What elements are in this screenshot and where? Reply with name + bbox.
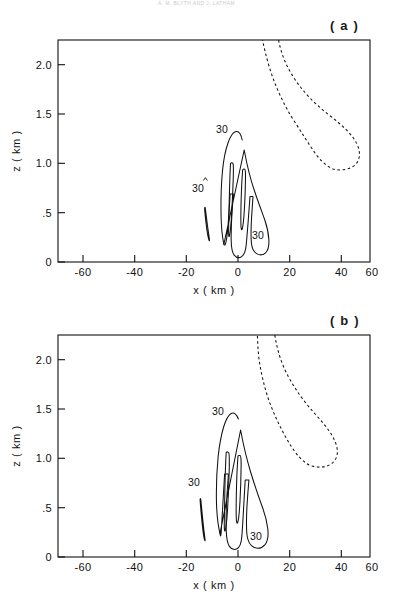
plot-frame	[58, 335, 370, 557]
svg-text:-60: -60	[75, 266, 92, 278]
svg-text:-20: -20	[178, 561, 195, 573]
caret-mark	[203, 178, 207, 181]
svg-text:0: 0	[235, 561, 241, 573]
contour-label-top: 30	[212, 405, 224, 417]
svg-text:40: 40	[335, 266, 348, 278]
panel-a: ( a ) -60 -40 -20 0 20 40 60	[0, 8, 393, 308]
svg-text:-40: -40	[126, 266, 143, 278]
contour-label-left: 30	[192, 182, 204, 194]
dashed-contour-outer	[263, 40, 360, 170]
panel-b: ( b ) -60 -40 -20 0 20 40 60	[0, 303, 393, 603]
svg-text:1.0: 1.0	[36, 157, 52, 169]
svg-text:0: 0	[235, 266, 241, 278]
svg-text:2.0: 2.0	[36, 354, 52, 366]
y-axis-ticks	[58, 65, 65, 262]
x-axis-tick-labels: -60 -40 -20 0 20 40 60	[75, 266, 379, 278]
y-axis-title: z ( km )	[10, 130, 22, 171]
svg-text:.5: .5	[42, 207, 52, 219]
svg-text:1.5: 1.5	[36, 108, 52, 120]
contour-label-right: 30	[250, 530, 262, 542]
solid-contour-sliver-inner-1	[229, 163, 234, 237]
svg-text:0: 0	[46, 551, 52, 563]
solid-contour-sliver-left	[205, 207, 210, 240]
contour-label-right: 30	[252, 229, 264, 241]
x-axis-ticks	[83, 550, 341, 557]
y-axis-title: z ( km )	[10, 425, 22, 466]
running-head: A. M. BLYTH AND J. LATHAM	[0, 0, 393, 6]
svg-text:20: 20	[283, 266, 296, 278]
panel-b-plot: -60 -40 -20 0 20 40 60 0 .5 1.0 1.5 2.0 …	[0, 303, 393, 603]
svg-text:-20: -20	[178, 266, 195, 278]
x-axis-tick-labels: -60 -40 -20 0 20 40 60	[75, 561, 379, 573]
contour-label-left: 30	[188, 476, 200, 488]
svg-text:-40: -40	[126, 561, 143, 573]
svg-text:-60: -60	[75, 561, 92, 573]
y-axis-tick-labels: 0 .5 1.0 1.5 2.0	[36, 59, 52, 268]
svg-text:1.0: 1.0	[36, 452, 52, 464]
dashed-contour-outer	[257, 335, 337, 467]
svg-text:40: 40	[335, 561, 348, 573]
y-axis-ticks	[58, 360, 65, 557]
panel-a-plot: -60 -40 -20 0 20 40 60 0 .5 1.0 1.5 2.0 …	[0, 8, 393, 308]
y-axis-tick-labels: 0 .5 1.0 1.5 2.0	[36, 354, 52, 563]
solid-contour-sliver-inner-2	[236, 455, 241, 523]
svg-text:60: 60	[366, 561, 379, 573]
solid-contour-sliver-left	[200, 499, 205, 541]
x-axis-title: x ( km )	[193, 284, 234, 296]
contour-label-top: 30	[216, 123, 228, 135]
svg-text:60: 60	[366, 266, 379, 278]
x-axis-ticks	[83, 255, 341, 262]
svg-text:.5: .5	[42, 502, 52, 514]
svg-text:0: 0	[46, 256, 52, 268]
svg-text:20: 20	[283, 561, 296, 573]
solid-contour-sliver-inner-2	[241, 169, 246, 230]
svg-text:1.5: 1.5	[36, 403, 52, 415]
plot-frame	[58, 40, 370, 262]
svg-text:2.0: 2.0	[36, 59, 52, 71]
x-axis-title: x ( km )	[193, 579, 234, 591]
